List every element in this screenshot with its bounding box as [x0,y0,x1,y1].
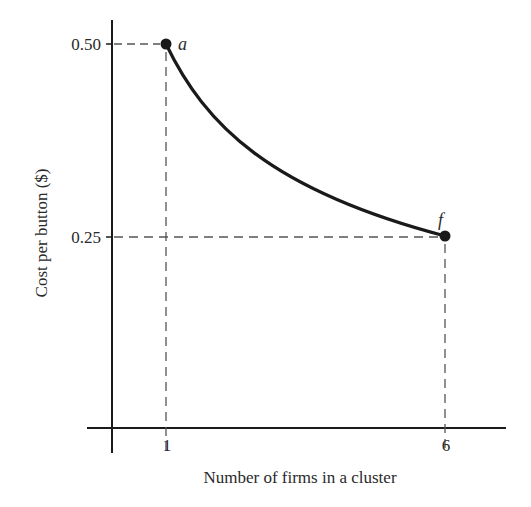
y-tick-label-050: 0.50 [71,35,101,54]
x-axis-title: Number of firms in a cluster [203,468,396,487]
chart: a f 0.50 0.25 1 6 Number of firms in a c… [0,0,531,507]
point-a [161,39,172,50]
point-f [440,231,451,242]
y-axis-title: Cost per button ($) [32,169,51,298]
cost-curve [166,44,445,236]
point-a-label: a [178,34,187,54]
x-tick-label-1: 1 [163,436,172,455]
point-f-label: f [438,210,446,230]
y-tick-label-025: 0.25 [71,228,101,247]
x-tick-label-6: 6 [442,436,451,455]
